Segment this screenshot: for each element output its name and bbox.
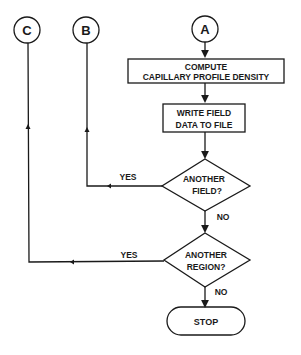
region-line2: REGION? (187, 262, 226, 272)
connector-a-label: A (200, 22, 210, 37)
write-line2: DATA TO FILE (176, 120, 233, 130)
another-field-diamond (162, 159, 250, 211)
field-yes-label: YES (119, 172, 136, 182)
write-line1: WRITE FIELD (177, 108, 231, 118)
region-yes-label: YES (120, 250, 137, 260)
field-line2: FIELD? (192, 186, 222, 196)
flowchart: C B A COMPUTE CAPILLARY PROFILE DENSITY … (0, 0, 301, 355)
another-region-diamond (164, 233, 250, 287)
region-line1: ANOTHER (185, 250, 227, 260)
compute-line2: CAPILLARY PROFILE DENSITY (143, 72, 270, 82)
compute-line1: COMPUTE (185, 62, 228, 72)
region-no-label: NO (215, 287, 228, 297)
field-line1: ANOTHER (183, 174, 225, 184)
connector-c-label: C (22, 23, 32, 38)
connector-b-label: B (81, 23, 90, 38)
field-yes-path (87, 43, 162, 186)
stop-label: STOP (194, 317, 218, 327)
field-no-label: NO (217, 212, 230, 222)
